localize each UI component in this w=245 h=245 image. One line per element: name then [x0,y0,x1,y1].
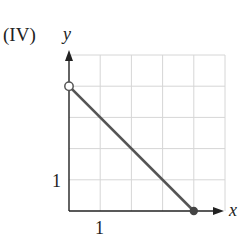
filled-endpoint-icon [190,207,198,215]
y-axis-label: y [61,24,71,44]
open-endpoint-icon [65,82,73,90]
chart-canvas: (IV) y x 1 1 [0,0,245,245]
grid [69,55,225,211]
x-axis-label: x [228,200,237,220]
panel-label: (IV) [3,24,36,46]
y-tick-label-1: 1 [52,171,61,191]
x-tick-label-1: 1 [95,218,104,238]
x-axis-arrow-icon [213,207,224,215]
axes [65,50,224,215]
